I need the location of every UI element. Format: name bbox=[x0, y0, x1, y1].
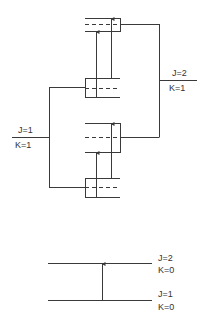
upper-box-1 bbox=[85, 18, 121, 32]
upper-box-2 bbox=[85, 123, 121, 153]
label-j2-k0-k: K=0 bbox=[158, 265, 174, 275]
label-j2-k0-j: J=2 bbox=[158, 253, 173, 263]
label-j2-k1-j: J=2 bbox=[172, 68, 187, 78]
energy-level-diagram bbox=[0, 0, 211, 330]
label-j2-k1-k: K=1 bbox=[169, 83, 185, 93]
label-j1-k0-j: J=1 bbox=[158, 289, 173, 299]
lower-box-1 bbox=[85, 78, 120, 98]
lower-box-2 bbox=[85, 178, 120, 198]
label-j1-k1-k: K=1 bbox=[15, 140, 31, 150]
label-j1-k1-j: J=1 bbox=[18, 125, 33, 135]
label-j1-k0-k: K=0 bbox=[158, 302, 174, 312]
